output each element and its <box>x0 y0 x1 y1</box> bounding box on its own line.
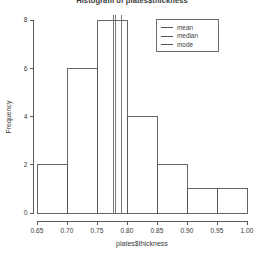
x-axis-title: plates$thickness <box>116 240 168 248</box>
x-tick-label-0-85: 0.85 <box>151 227 164 234</box>
x-tick-label-0-65: 0.65 <box>31 227 44 234</box>
x-tick-label-0-95: 0.95 <box>211 227 224 234</box>
legend[interactable]: mean median mode <box>156 19 218 51</box>
x-tick-label-0-90: 0.90 <box>181 227 194 234</box>
x-tick-label-0-70: 0.70 <box>61 227 74 234</box>
y-tick-label-4: 4 <box>24 113 28 120</box>
bar-bin-6 <box>187 189 217 213</box>
legend-label-mean: mean <box>177 24 193 31</box>
x-tick-label-0-80: 0.80 <box>121 227 134 234</box>
bar-bin-7 <box>217 189 247 213</box>
bar-bin-1 <box>37 165 67 213</box>
x-tick-label-1-00: 1.00 <box>241 227 254 234</box>
statistic-lines <box>114 15 121 213</box>
legend-label-mode: mode <box>177 41 193 48</box>
y-tick-label-2: 2 <box>24 161 28 168</box>
y-axis-title: Frequency <box>5 100 13 134</box>
bar-bin-5 <box>157 165 187 213</box>
bar-bin-2 <box>67 68 97 213</box>
y-tick-label-0: 0 <box>24 209 28 216</box>
x-axis: 0.65 0.70 0.75 0.80 0.85 0.90 0.95 1.00 <box>31 221 254 234</box>
plot-canvas: 8 6 4 2 0 Frequency 0.65 0.70 0.75 0.80 … <box>0 0 264 256</box>
legend-label-median: median <box>177 32 198 39</box>
x-tick-label-0-75: 0.75 <box>91 227 104 234</box>
y-axis: 8 6 4 2 0 <box>24 16 34 216</box>
y-tick-label-8: 8 <box>24 16 28 23</box>
bar-bin-3 <box>97 20 127 213</box>
histogram-figure: Histogram of plates$thickness 8 6 4 2 0 … <box>0 0 264 256</box>
bar-bin-4 <box>127 117 157 214</box>
y-tick-label-6: 6 <box>24 65 28 72</box>
